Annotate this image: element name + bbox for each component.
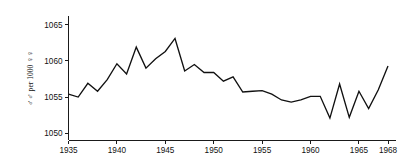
x-tick-label: 1945	[156, 146, 175, 155]
y-axis-group: 1050105510601065	[44, 16, 68, 140]
x-tick-label: 1955	[253, 146, 272, 155]
y-tick-labels: 1050105510601065	[44, 21, 63, 139]
x-tick-label: 1940	[108, 146, 127, 155]
data-series-line	[69, 38, 389, 118]
x-tick-label: 1968	[379, 146, 398, 155]
x-axis-group: 19351940194519501955196019651968	[59, 141, 397, 155]
plot-area	[69, 38, 389, 118]
y-tick-marks	[65, 25, 69, 134]
x-tick-labels: 19351940194519501955196019651968	[59, 146, 397, 155]
x-tick-label: 1965	[350, 146, 369, 155]
y-tick-label: 1060	[44, 57, 63, 66]
sex-ratio-line-chart: 1050105510601065 19351940194519501955196…	[0, 0, 412, 165]
x-tick-marks	[69, 141, 389, 145]
y-axis-title: ♂♂ per 1000 ♀♀	[26, 50, 35, 106]
y-axis-title-text: ♂♂ per 1000 ♀♀	[26, 50, 35, 106]
y-tick-label: 1050	[44, 129, 63, 138]
x-tick-label: 1950	[205, 146, 224, 155]
y-tick-label: 1055	[44, 93, 63, 102]
y-tick-label: 1065	[44, 21, 63, 30]
chart-canvas: 1050105510601065 19351940194519501955196…	[0, 0, 412, 165]
x-tick-label: 1935	[59, 146, 78, 155]
x-tick-label: 1960	[301, 146, 320, 155]
